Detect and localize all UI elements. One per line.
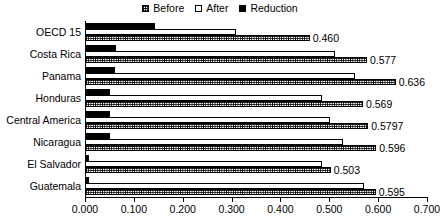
- filled-square-icon: [239, 5, 246, 12]
- legend-item-before[interactable]: Before: [142, 3, 184, 14]
- x-axis-tick-label: 0.700: [404, 203, 445, 215]
- bar-before[interactable]: [85, 79, 396, 85]
- bar-after[interactable]: [85, 139, 343, 145]
- y-axis-category-label: Guatemala: [30, 180, 81, 192]
- y-axis-category-label: El Salvador: [27, 158, 81, 170]
- bar-before[interactable]: [85, 189, 376, 195]
- x-axis-tick: [329, 197, 330, 202]
- bar-reduction[interactable]: [85, 45, 116, 51]
- chart-category-group: Guatemala0.595: [85, 175, 427, 197]
- x-axis-line: [85, 197, 427, 198]
- bar-after[interactable]: [85, 29, 236, 35]
- chart-category-group: Costa Rica0.577: [85, 43, 427, 65]
- y-axis-category-label: Costa Rica: [30, 48, 81, 60]
- legend-label-before: Before: [153, 3, 184, 14]
- chart-category-group: Panama0.636: [85, 65, 427, 87]
- bar-reduction[interactable]: [85, 67, 115, 73]
- bar-reduction[interactable]: [85, 177, 89, 183]
- legend-label-after: After: [206, 3, 228, 14]
- x-axis-tick-label: 0.500: [306, 203, 352, 215]
- chart-category-group: Central America0.5797: [85, 109, 427, 131]
- empty-square-icon: [195, 5, 202, 12]
- y-axis-category-label: Panama: [42, 70, 81, 82]
- bar-before[interactable]: [85, 145, 376, 151]
- chart-category-group: Honduras0.569: [85, 87, 427, 109]
- y-axis-category-label: Central America: [6, 114, 81, 126]
- bar-before[interactable]: [85, 57, 367, 63]
- bar-before[interactable]: [85, 123, 368, 129]
- bar-after[interactable]: [85, 95, 322, 101]
- bar-after[interactable]: [85, 51, 335, 57]
- y-axis-category-label: Nicaragua: [33, 136, 81, 148]
- x-axis-tick-label: 0.300: [209, 203, 255, 215]
- bar-after[interactable]: [85, 73, 355, 79]
- legend-label-reduction: Reduction: [250, 3, 297, 14]
- legend-item-reduction[interactable]: Reduction: [239, 3, 297, 14]
- chart-category-group: Nicaragua0.596: [85, 131, 427, 153]
- bar-before[interactable]: [85, 35, 310, 41]
- bar-before[interactable]: [85, 167, 331, 173]
- bar-after[interactable]: [85, 183, 364, 189]
- chart-category-group: El Salvador0.503: [85, 153, 427, 175]
- bar-reduction[interactable]: [85, 155, 89, 161]
- x-axis-tick: [232, 197, 233, 202]
- bar-reduction[interactable]: [85, 23, 155, 29]
- x-axis-tick: [280, 197, 281, 202]
- chart-category-group: OECD 150.460: [85, 21, 427, 43]
- checkered-square-icon: [142, 5, 149, 12]
- x-axis-tick: [85, 197, 86, 202]
- bar-value-label: 0.595: [379, 186, 405, 198]
- x-axis-tick-label: 0.600: [355, 203, 401, 215]
- bar-after[interactable]: [85, 161, 322, 167]
- bar-reduction[interactable]: [85, 111, 110, 117]
- y-axis-category-label: Honduras: [35, 92, 81, 104]
- x-axis-tick-label: 0.100: [111, 203, 157, 215]
- bar-reduction[interactable]: [85, 89, 110, 95]
- bar-reduction[interactable]: [85, 133, 110, 139]
- x-axis-tick: [134, 197, 135, 202]
- y-axis-category-label: OECD 15: [36, 26, 81, 38]
- x-axis-tick: [183, 197, 184, 202]
- x-axis-tick-label: 0.000: [62, 203, 108, 215]
- x-axis-tick-label: 0.400: [257, 203, 303, 215]
- chart-legend: Before After Reduction: [0, 1, 440, 16]
- x-axis-tick: [427, 197, 428, 202]
- bar-after[interactable]: [85, 117, 330, 123]
- bar-before[interactable]: [85, 101, 363, 107]
- x-axis-tick-label: 0.200: [160, 203, 206, 215]
- legend-item-after[interactable]: After: [195, 3, 228, 14]
